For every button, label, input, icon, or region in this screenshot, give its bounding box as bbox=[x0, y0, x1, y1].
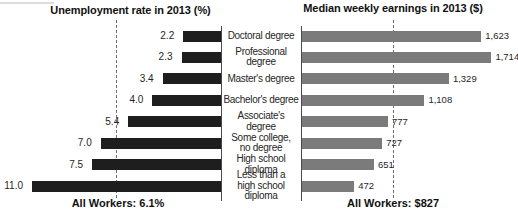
unemployment-bar bbox=[182, 52, 222, 63]
category-label: Professional degree bbox=[223, 45, 299, 69]
unemployment-value-label: 7.5 bbox=[69, 159, 83, 171]
earnings-value-label: 1,714 bbox=[495, 51, 518, 63]
unemployment-bar bbox=[183, 31, 221, 42]
category-label: Bachelor's degree bbox=[223, 88, 299, 112]
earnings-bar bbox=[302, 116, 388, 127]
left-reference-line bbox=[116, 20, 117, 198]
earnings-value-label: 777 bbox=[392, 116, 408, 128]
left-chart-title: Unemployment rate in 2013 (%) bbox=[28, 4, 233, 16]
unemployment-bar bbox=[32, 181, 221, 192]
unemployment-value-label: 4.0 bbox=[129, 94, 143, 106]
unemployment-bar bbox=[128, 116, 221, 127]
earnings-bar bbox=[302, 31, 481, 42]
right-chart-title: Median weekly earnings in 2013 ($) bbox=[293, 2, 493, 14]
right-all-workers-label: All Workers: $827 bbox=[313, 197, 473, 209]
earnings-bar bbox=[302, 181, 354, 192]
category-label: Doctoral degree bbox=[223, 24, 299, 48]
category-label: Less than a high school diploma bbox=[223, 174, 299, 198]
earnings-value-label: 1,623 bbox=[485, 30, 509, 42]
unemployment-value-label: 7.0 bbox=[78, 137, 92, 149]
earnings-value-label: 651 bbox=[378, 159, 394, 171]
unemployment-value-label: 3.4 bbox=[140, 73, 154, 85]
left-all-workers-label: All Workers: 6.1% bbox=[38, 197, 198, 209]
earnings-value-label: 727 bbox=[386, 137, 402, 149]
category-label: Some college, no degree bbox=[223, 131, 299, 155]
unemployment-bar bbox=[152, 95, 221, 106]
earnings-unemployment-chart: Unemployment rate in 2013 (%) Median wee… bbox=[0, 0, 518, 212]
earnings-bar bbox=[302, 73, 449, 84]
unemployment-value-label: 5.4 bbox=[105, 116, 119, 128]
earnings-value-label: 472 bbox=[358, 180, 374, 192]
earnings-bar bbox=[302, 138, 382, 149]
right-reference-line bbox=[393, 20, 394, 198]
unemployment-value-label: 11.0 bbox=[4, 180, 23, 192]
unemployment-bar bbox=[101, 138, 221, 149]
earnings-value-label: 1,108 bbox=[428, 94, 452, 106]
earnings-bar bbox=[302, 159, 374, 170]
category-label: Master's degree bbox=[223, 67, 299, 91]
earnings-bar bbox=[302, 95, 424, 106]
earnings-value-label: 1,329 bbox=[453, 73, 477, 85]
unemployment-bar bbox=[163, 73, 221, 84]
left-axis-line bbox=[221, 26, 222, 201]
unemployment-value-label: 2.2 bbox=[160, 30, 174, 42]
unemployment-value-label: 2.3 bbox=[159, 51, 173, 63]
earnings-bar bbox=[302, 52, 491, 63]
unemployment-bar bbox=[92, 159, 221, 170]
category-label: Associate's degree bbox=[223, 110, 299, 134]
